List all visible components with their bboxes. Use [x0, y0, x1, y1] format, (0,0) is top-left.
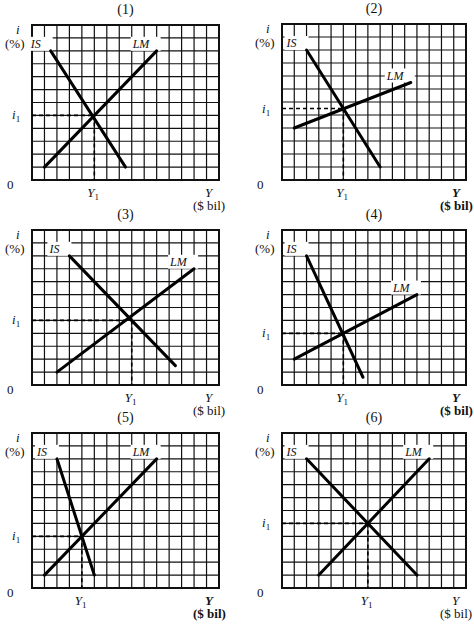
- y-axis-symbol: i: [266, 431, 270, 444]
- is-curve: [307, 459, 417, 575]
- plot-area: [0, 0, 474, 627]
- origin-label: 0: [257, 586, 264, 599]
- lm-label: LM: [404, 446, 423, 458]
- y1-label: Y1: [361, 594, 373, 612]
- is-label: IS: [286, 446, 298, 458]
- x-axis-unit: ($ bil): [440, 607, 472, 620]
- lm-curve: [319, 459, 429, 575]
- panel-6: (6)i(%)0i1Y1Y($ bil)ISLM: [0, 0, 474, 627]
- equilibrium-guides: [282, 523, 368, 588]
- y-axis-unit: (%): [255, 445, 275, 458]
- grid-lines: [282, 433, 466, 588]
- panel-title: (6): [354, 410, 394, 426]
- i1-label: i1: [262, 516, 270, 534]
